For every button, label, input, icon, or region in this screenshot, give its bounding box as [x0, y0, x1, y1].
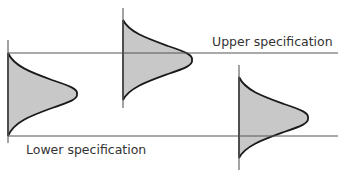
bell-curve-1: [8, 53, 77, 136]
distribution-centered: [8, 40, 77, 143]
specification-limits-diagram: Upper specification Lower specification: [0, 0, 344, 177]
bell-curve-3: [239, 77, 308, 158]
upper-specification-label: Upper specification: [212, 34, 333, 49]
distribution-shifted-down: [239, 65, 308, 170]
lower-specification-label: Lower specification: [26, 142, 146, 157]
distribution-shifted-up: [123, 8, 192, 108]
bell-curve-2: [123, 20, 192, 100]
